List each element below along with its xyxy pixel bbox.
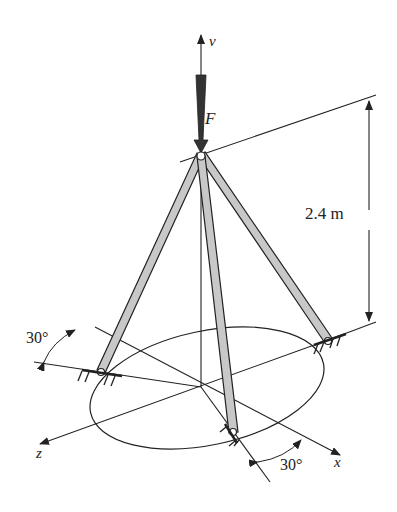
angle-bottom-label: 30°	[280, 456, 302, 473]
v-axis-label: v	[209, 33, 216, 49]
z-axis-line	[40, 340, 328, 444]
x-axis-label: x	[333, 454, 341, 470]
member-left	[97, 153, 204, 373]
x-axis-line	[95, 327, 340, 455]
z-axis-label: z	[35, 445, 42, 461]
angle-arc-left	[44, 330, 75, 362]
apex-joint	[197, 152, 205, 160]
ground-supports	[78, 334, 346, 446]
force-label: F	[204, 109, 216, 128]
members	[97, 152, 332, 433]
height-label: 2.4 m	[305, 204, 344, 223]
axes	[34, 35, 340, 482]
tripod-diagram: v F 2.4 m 30° 30° z x	[0, 0, 397, 512]
angle-left-label: 30°	[26, 329, 48, 346]
